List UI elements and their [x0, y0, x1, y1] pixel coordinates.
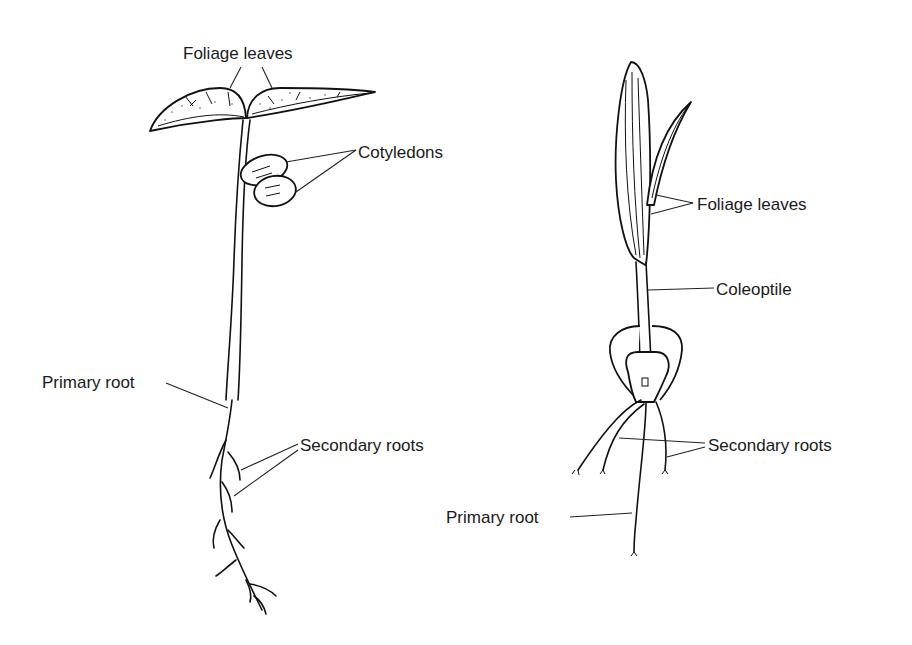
dicot-primary-root — [220, 400, 262, 610]
label-monocot-primary-root: Primary root — [446, 508, 539, 527]
label-dicot-secondary-roots: Secondary roots — [300, 436, 424, 455]
monocot-primary-root — [634, 402, 646, 552]
label-cotyledons: Cotyledons — [358, 143, 443, 162]
seedling-diagram: Foliage leaves Cotyledons Primary root S… — [0, 0, 912, 645]
label-coleoptile: Coleoptile — [716, 280, 792, 299]
label-monocot-secondary-roots: Secondary roots — [708, 436, 832, 455]
right-foliage-leaf — [247, 88, 375, 118]
label-dicot-primary-root: Primary root — [42, 373, 135, 392]
dicot-leader-lines — [166, 67, 356, 496]
dicot-seedling — [150, 88, 375, 614]
label-monocot-foliage-leaves: Foliage leaves — [697, 195, 807, 214]
monocot-seedling — [572, 62, 691, 556]
label-dicot-foliage-leaves: Foliage leaves — [183, 44, 293, 63]
